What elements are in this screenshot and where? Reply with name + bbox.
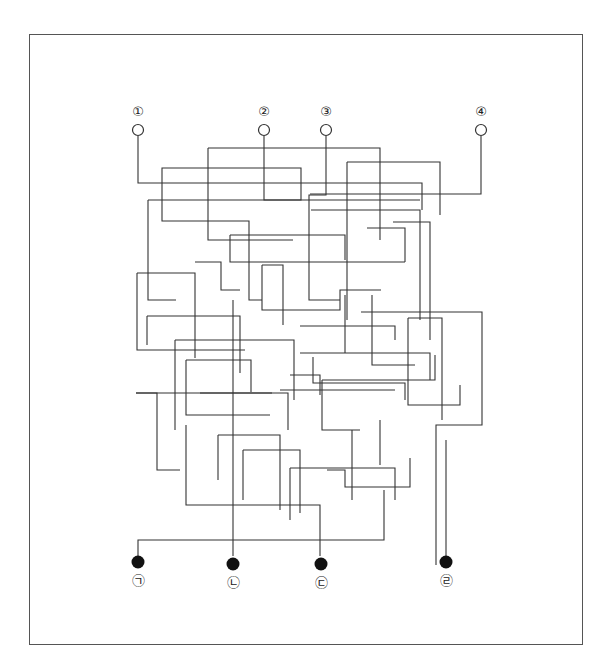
maze-line: [367, 228, 405, 262]
maze-line: [138, 136, 422, 210]
maze-line: [408, 318, 460, 405]
maze-line: [322, 355, 435, 380]
maze-line: [186, 360, 270, 415]
end-label-ㄷ: ㉢: [311, 576, 331, 589]
maze-line: [347, 162, 440, 215]
maze-line: [310, 136, 481, 194]
maze-line: [290, 468, 395, 500]
maze-line: [313, 357, 405, 400]
maze-lines: [0, 0, 613, 672]
start-label-2: ②: [254, 105, 274, 118]
end-label-ㄹ: ㉣: [436, 574, 456, 587]
maze-line: [138, 490, 384, 556]
start-node-3: [321, 125, 332, 136]
maze-line: [218, 435, 280, 510]
maze-line: [136, 393, 180, 470]
maze-line: [195, 262, 240, 290]
maze-line: [322, 380, 360, 430]
maze-line: [147, 316, 240, 373]
start-label-4: ④: [471, 105, 491, 118]
maze-line: [327, 458, 410, 487]
end-node-ㄹ: [440, 556, 453, 569]
maze-line: [137, 273, 245, 350]
end-node-ㄴ: [227, 558, 240, 571]
maze-line: [200, 393, 288, 430]
maze-line: [311, 210, 420, 320]
start-node-1: [133, 125, 144, 136]
maze-line: [361, 312, 482, 565]
end-label-ㄴ: ㉡: [223, 576, 243, 589]
maze-line: [309, 136, 340, 300]
maze-line: [230, 235, 345, 260]
maze-line: [208, 148, 293, 240]
maze-line: [300, 326, 395, 340]
end-node-ㄱ: [132, 556, 145, 569]
start-label-3: ③: [316, 105, 336, 118]
end-node-ㄷ: [315, 558, 328, 571]
maze-line: [186, 360, 251, 392]
maze-line: [162, 136, 301, 300]
start-node-2: [259, 125, 270, 136]
start-label-1: ①: [128, 105, 148, 118]
maze-line: [262, 265, 283, 325]
maze-line: [262, 265, 381, 310]
maze-line: [230, 235, 405, 262]
maze-line: [393, 222, 430, 340]
start-node-4: [476, 125, 487, 136]
end-label-ㄱ: ㉠: [128, 574, 148, 587]
maze-line: [175, 340, 294, 400]
maze-line: [243, 450, 300, 513]
